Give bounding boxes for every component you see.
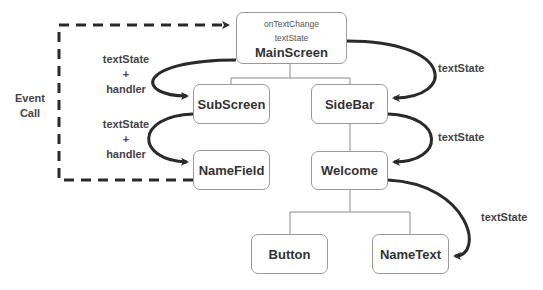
node-title: NameText <box>380 247 441 262</box>
node-name-field: NameField <box>193 150 270 190</box>
label-sub-to-namefield: textState + handler <box>96 117 156 162</box>
label-main-to-sidebar: textState <box>438 61 484 76</box>
node-title: NameField <box>199 163 265 178</box>
label-main-to-sub: textState + handler <box>96 52 156 97</box>
node-button: Button <box>251 234 328 274</box>
label-event-call: Event Call <box>10 91 50 121</box>
node-title: SubScreen <box>198 97 266 112</box>
node-welcome: Welcome <box>311 151 388 190</box>
node-side-bar: SideBar <box>311 84 388 124</box>
node-title: MainScreen <box>255 45 328 60</box>
node-title: SideBar <box>325 97 374 112</box>
node-sub-screen: SubScreen <box>193 84 270 124</box>
label-welcome-to-nametext: textState <box>481 210 527 225</box>
prop-text-state: textState <box>275 31 309 45</box>
node-name-text: NameText <box>372 234 449 274</box>
node-main-screen: onTextChange textState MainScreen <box>236 12 347 64</box>
arrow-sidebar-to-welcome <box>388 114 432 162</box>
node-title: Welcome <box>321 163 378 178</box>
prop-on-text-change: onTextChange <box>264 17 319 31</box>
label-sidebar-to-welcome: textState <box>438 130 484 145</box>
node-title: Button <box>269 247 311 262</box>
